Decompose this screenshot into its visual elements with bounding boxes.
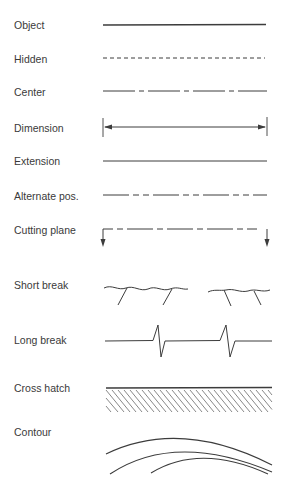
- line-samples: [0, 0, 284, 493]
- arrowhead-right-icon: [258, 125, 266, 130]
- arrow-down-left-icon: [101, 239, 106, 247]
- long-break-line: [105, 325, 272, 357]
- cross-hatch: [106, 388, 272, 413]
- short-break-line: [104, 287, 270, 306]
- cutting-plane-line: [101, 229, 270, 247]
- contour-lines: [106, 438, 272, 474]
- arrowhead-left-icon: [104, 125, 112, 130]
- dimension-line: [103, 117, 267, 137]
- arrow-down-right-icon: [265, 239, 270, 247]
- object-line: [103, 25, 266, 26]
